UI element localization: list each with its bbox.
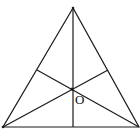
triangle-outline bbox=[3, 8, 139, 127]
apex-point bbox=[72, 7, 75, 10]
triangle-svg: O bbox=[0, 0, 140, 134]
bottom-left-point bbox=[2, 126, 5, 129]
cevian-from-bottom-left bbox=[3, 70, 108, 127]
center-point bbox=[71, 88, 74, 91]
triangle-diagram: O bbox=[0, 0, 140, 134]
center-label: O bbox=[75, 92, 84, 107]
